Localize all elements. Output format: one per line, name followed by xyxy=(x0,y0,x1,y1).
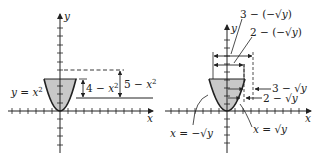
curve-label: y = x2 xyxy=(10,86,43,98)
top-label-2: 2 − (−√y) xyxy=(250,26,302,38)
right-label-2: 2 − √y xyxy=(263,92,299,104)
x-axis-label: x xyxy=(147,112,153,124)
dim-inner-label: 4 − x2 xyxy=(86,82,119,94)
x-axis-label-right: x xyxy=(305,112,311,124)
curve-left-label: x = −√y xyxy=(170,127,214,139)
y-axis-label: y xyxy=(63,10,71,22)
diagram-figure: x y y = x2 xyxy=(0,0,315,161)
curve-right-label: x = √y xyxy=(253,123,288,135)
left-panel: x y y = x2 xyxy=(8,10,157,153)
y-axis-label-right: y xyxy=(230,22,238,34)
right-panel: x y xyxy=(165,8,311,153)
top-label-1: 3 − (−√y) xyxy=(240,8,292,20)
dim-outer-label: 5 − x2 xyxy=(124,78,157,90)
